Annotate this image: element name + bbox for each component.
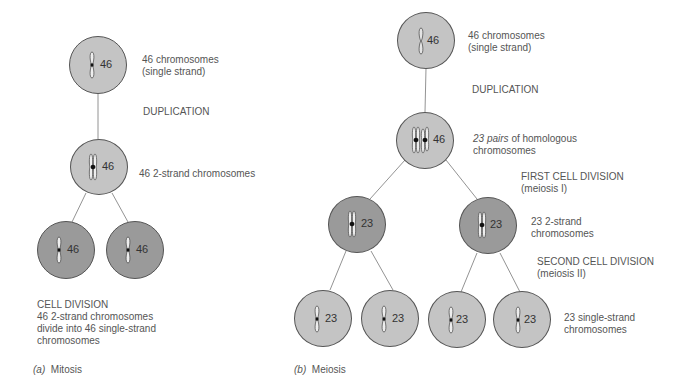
meiosis-single-strand-label: 23 single-strand chromosomes <box>564 312 635 336</box>
mitosis-caption: (a) Mitosis <box>33 364 82 375</box>
meiosis-duplication-label: DUPLICATION <box>472 84 539 96</box>
mitosis-duplication-label: DUPLICATION <box>143 106 210 118</box>
chromosome-single-icon <box>313 305 321 333</box>
chromosome-single-icon <box>88 51 96 79</box>
chromosome-count: 23 <box>456 313 468 325</box>
meiosis-two-strand-label: 23 2-strand chromosomes <box>531 216 594 240</box>
cell-mitosis-daughter-1: 46 <box>37 221 95 279</box>
cell-meiosis-homologous-pairs: 46 <box>396 112 454 169</box>
chromosome-single-icon <box>55 236 63 264</box>
chromosome-single-icon <box>447 306 455 334</box>
cell-meiosis-II-4: 23 <box>493 291 551 348</box>
chromosome-count: 46 <box>102 160 114 172</box>
mitosis-two-strand-label: 46 2-strand chromosomes <box>139 168 255 180</box>
chromosome-count: 23 <box>392 312 404 324</box>
meiosis-first-division-label: FIRST CELL DIVISION (meiosis I) <box>521 171 624 195</box>
mitosis-top-label: 46 chromosomes (single strand) <box>142 54 219 78</box>
chromosome-single-icon <box>124 236 132 264</box>
cell-meiosis-I-2: 23 <box>459 197 517 254</box>
chromosome-single-icon <box>380 305 388 333</box>
chromosome-count: 23 <box>524 313 536 325</box>
meiosis-caption: (b) Meiosis <box>294 364 346 375</box>
chromosome-count: 23 <box>325 312 337 324</box>
chromosome-count: 23 <box>490 218 502 230</box>
meiosis-pairs-label: 23 pairs of homologous chromosomes <box>473 133 577 157</box>
chromosome-count: 46 <box>433 133 445 145</box>
chromosome-count: 46 <box>67 243 79 255</box>
cell-meiosis-II-1: 23 <box>294 290 352 347</box>
meiosis-second-division-label: SECOND CELL DIVISION (meiosis II) <box>537 256 654 280</box>
mitosis-cell-division-label: CELL DIVISION 46 2-strand chromosomes di… <box>37 299 156 347</box>
cell-meiosis-I-1: 23 <box>328 196 386 253</box>
chromosome-double-icon <box>87 153 99 181</box>
cell-mitosis-46-single: 46 <box>69 36 127 94</box>
chromosome-single-icon <box>417 27 425 55</box>
chromosome-double-icon <box>346 210 358 238</box>
chromosome-count: 46 <box>136 243 148 255</box>
cell-mitosis-46-double: 46 <box>70 139 128 195</box>
chromosome-double-icon <box>476 211 488 239</box>
chromosome-count: 46 <box>427 34 439 46</box>
chromosome-single-icon <box>514 306 522 334</box>
cell-meiosis-46-single: 46 <box>397 12 455 69</box>
cell-meiosis-II-2: 23 <box>361 290 419 347</box>
cell-meiosis-II-3: 23 <box>428 291 486 348</box>
cell-mitosis-daughter-2: 46 <box>106 221 164 279</box>
meiosis-top-label: 46 chromosomes (single strand) <box>468 30 545 54</box>
chromosome-count: 46 <box>100 58 112 70</box>
chromosome-pair-icon <box>410 126 432 154</box>
chromosome-count: 23 <box>361 217 373 229</box>
